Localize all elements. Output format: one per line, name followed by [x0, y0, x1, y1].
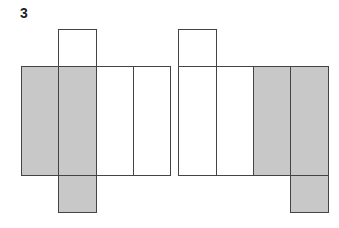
net-left-cell-3: [96, 66, 134, 176]
figure-number: 3: [20, 5, 28, 21]
net-right-cell-2: [216, 66, 254, 176]
net-right-cell-3: [253, 66, 291, 176]
net-right-cell-4: [290, 66, 329, 176]
net-left-cell-4: [133, 66, 171, 176]
net-left-cell-0: [58, 29, 97, 67]
net-right-cell-0: [178, 29, 217, 67]
net-right-cell-1: [178, 66, 217, 176]
net-left-cell-1: [21, 66, 59, 176]
net-left-cell-2: [58, 66, 97, 176]
net-right-cell-5: [290, 175, 329, 213]
net-left-cell-5: [58, 175, 97, 213]
